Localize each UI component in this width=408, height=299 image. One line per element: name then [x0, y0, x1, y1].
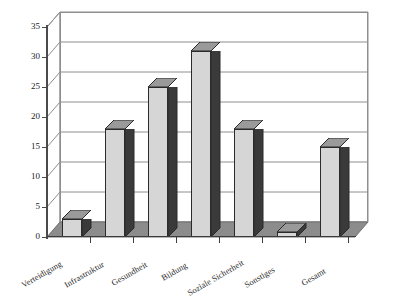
y-tick-15: [42, 147, 47, 148]
bar-face: [105, 129, 125, 237]
y-axis-label-5: 5: [18, 202, 40, 211]
y-tick-5: [42, 207, 47, 208]
x-axis-label-gesundheit: Gesundheit: [110, 260, 149, 288]
x-tick-5: [305, 237, 306, 243]
bar-side: [254, 129, 263, 237]
bar-side: [168, 87, 177, 237]
bar-top: [62, 210, 91, 219]
x-tick-1: [133, 237, 134, 243]
x-tick-3: [219, 237, 220, 243]
y-tick-10: [42, 177, 47, 178]
x-tick-4: [262, 237, 263, 243]
y-tick-0: [42, 237, 47, 238]
x-axis-label-sonstiges: Sonstiges: [243, 265, 277, 290]
y-axis-label-10: 10: [18, 172, 40, 181]
y-axis-label-30: 30: [18, 52, 40, 61]
y-axis-label-0: 0: [18, 232, 40, 241]
y-tick-25: [42, 87, 47, 88]
bar-chart: 35 30 25 20 15 10 5 0: [0, 0, 408, 299]
bar-face: [191, 51, 211, 237]
bar-soziale-sicherheit: [234, 27, 263, 237]
y-axis-label-20: 20: [18, 112, 40, 121]
x-axis-line: [47, 236, 356, 237]
bar-face: [148, 87, 168, 237]
bar-bildung: [191, 27, 220, 237]
x-tick-2: [176, 237, 177, 243]
y-axis-label-25: 25: [18, 82, 40, 91]
x-axis-label-soziale-sicherheit: Soziale Sicherheit: [186, 258, 245, 297]
bar-face: [62, 219, 82, 237]
bar-verteidigung: [62, 27, 91, 237]
bar-side: [211, 51, 220, 237]
y-tick-20: [42, 117, 47, 118]
plot-left-wall: [47, 12, 61, 238]
bar-sonstiges: [277, 27, 306, 237]
bar-gesundheit: [148, 27, 177, 237]
bar-side: [125, 129, 134, 237]
bar-top: [105, 120, 134, 129]
bar-infrastruktur: [105, 27, 134, 237]
x-axis-label-bildung: Bildung: [160, 261, 189, 283]
bar-top: [234, 120, 263, 129]
x-tick-0: [90, 237, 91, 243]
y-axis-label-15: 15: [18, 142, 40, 151]
y-axis-label-35: 35: [18, 22, 40, 31]
bar-side: [340, 147, 349, 237]
x-axis-label-verteidigung: Verteidigung: [20, 259, 64, 289]
y-tick-30: [42, 57, 47, 58]
bar-gesamt: [320, 27, 349, 237]
bar-face: [320, 147, 340, 237]
x-axis-label-gesamt: Gesamt: [300, 267, 328, 288]
bar-side: [82, 219, 91, 237]
x-axis-label-infrastruktur: Infrastruktur: [63, 260, 106, 290]
x-tick-6: [348, 237, 349, 243]
bar-top: [320, 138, 349, 147]
y-tick-35: [42, 27, 47, 28]
bar-top: [191, 42, 220, 51]
bar-top: [148, 78, 177, 87]
bar-face: [234, 129, 254, 237]
bar-top: [277, 223, 306, 232]
